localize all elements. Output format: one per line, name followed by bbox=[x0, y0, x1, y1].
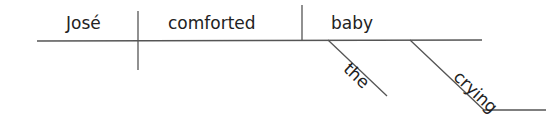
baseline bbox=[37, 40, 482, 41]
verb-word: comforted bbox=[168, 15, 256, 32]
object-word: baby bbox=[331, 15, 373, 32]
subject-word: José bbox=[66, 15, 101, 32]
